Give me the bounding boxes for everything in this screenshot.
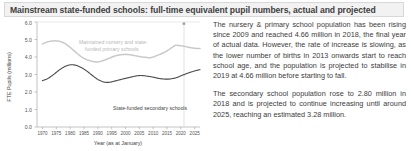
x-tick-label: 1975 [51,131,62,136]
x-tick-label: 1990 [93,131,104,136]
y-tick-label: 2.0 [25,89,32,95]
x-tick-label: 1995 [107,131,118,136]
x-tick-label: 2010 [148,131,159,136]
y-tick-label: 3.0 [25,72,32,78]
series-label-primary: Maintained nursery and state- funded pri… [79,39,148,52]
x-tick-label: 2015 [162,131,173,136]
x-tick-label: 1980 [65,131,76,136]
x-axis-title: Year (as at January) [94,140,143,146]
chart-title-bar: Mainstream state-funded schools: full-ti… [4,2,404,17]
x-tick-label: 2025 [190,131,201,136]
y-axis-ticks [35,22,38,127]
y-tick-label: 1.0 [25,107,32,113]
y-tick-label: 5.0 [25,37,32,43]
chart-canvas: 0.0 1.0 2.0 3.0 4.0 5.0 6.0 FTE Pupils (… [0,19,208,151]
x-tick-label: 2020 [176,131,187,136]
y-tick-label: 0.0 [25,124,32,130]
x-axis-tick-labels: 1970 1975 1980 1985 1990 1995 2000 2005 … [37,131,200,136]
x-tick-label: 2000 [120,131,131,136]
series-label-primary-line2: funded primary schools [85,46,139,52]
commentary-panel: The nursery & primary school population … [213,20,411,151]
page-title: Mainstream state-funded schools: full-ti… [10,5,376,15]
commentary-paragraph-secondary: The secondary school population rose to … [213,89,406,120]
y-tick-label: 4.0 [25,54,32,60]
x-tick-label: 2005 [134,131,145,136]
x-tick-label: 1985 [79,131,90,136]
line-chart: 0.0 1.0 2.0 3.0 4.0 5.0 6.0 FTE Pupils (… [0,19,208,151]
y-axis-tick-labels: 0.0 1.0 2.0 3.0 4.0 5.0 6.0 [25,20,32,131]
series-label-primary-line1: Maintained nursery and state- [79,39,148,45]
y-axis-title: FTE Pupils (millions) [6,52,12,102]
y-tick-label: 6.0 [25,20,32,26]
series-label-secondary: State-funded secondary schools [113,105,188,111]
x-tick-label: 1970 [37,131,48,136]
commentary-paragraph-primary: The nursery & primary school population … [213,20,406,81]
projection-boundary-marker [183,23,186,25]
plot-area-background [37,22,200,127]
